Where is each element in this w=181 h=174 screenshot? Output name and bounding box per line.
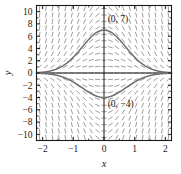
y-tick-label: −8 — [22, 117, 32, 127]
curve-annotation: (0, 7) — [108, 14, 129, 25]
y-tick-label: 8 — [28, 19, 33, 29]
y-tick-label: −6 — [22, 105, 32, 115]
y-tick-label: −10 — [18, 130, 33, 140]
plot-canvas: −2−1012−10−8−6−4−20246810 (0, 7)(0, −4) … — [0, 0, 181, 174]
x-tick-label: −1 — [68, 144, 78, 154]
y-tick-label: 2 — [28, 56, 33, 66]
curve-annotation: (0, −4) — [108, 99, 134, 110]
x-tick-label: 2 — [163, 144, 168, 154]
x-axis-title: x — [101, 158, 107, 169]
y-tick-label: 10 — [23, 7, 33, 17]
y-tick-label: 6 — [28, 32, 33, 42]
y-axis-title: y — [2, 70, 13, 76]
y-tick-label: 0 — [28, 68, 33, 78]
y-tick-label: 4 — [28, 44, 33, 54]
slope-field-figure: −2−1012−10−8−6−4−20246810 (0, 7)(0, −4) … — [0, 0, 181, 174]
x-tick-label: 0 — [102, 144, 107, 154]
x-tick-label: 1 — [132, 144, 137, 154]
y-tick-label: −2 — [22, 81, 32, 91]
y-tick-label: −4 — [22, 93, 32, 103]
x-tick-label: −2 — [38, 144, 48, 154]
